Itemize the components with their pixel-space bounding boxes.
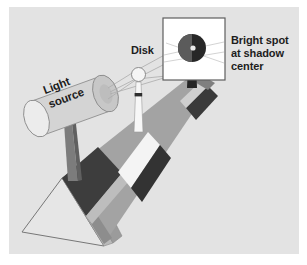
- screen-assembly: [163, 18, 225, 88]
- figure-root: Bright spot at shadow center Disk Light …: [0, 0, 307, 265]
- light-source-post: [64, 123, 82, 181]
- label-disk: Disk: [131, 44, 154, 57]
- disk-post-collar: [135, 93, 143, 96]
- label-bright-spot: Bright spot at shadow center: [231, 34, 303, 73]
- disk: [132, 68, 146, 82]
- bright-spot: [190, 45, 195, 50]
- disk-post: [134, 82, 143, 132]
